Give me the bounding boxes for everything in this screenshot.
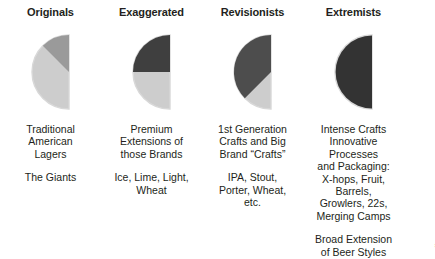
half-pie-chart-exaggerated (115, 33, 189, 111)
pie-geometry (335, 35, 372, 109)
segment-description: Premium Extensions of those Brands (120, 123, 183, 160)
half-pie-chart-extremists (317, 33, 391, 111)
pie-filled-slice (335, 36, 371, 109)
segment-column-extremists: Extremists Intense Crafts Innovative Pro… (303, 6, 404, 259)
half-pie-svg (115, 33, 189, 111)
pie-geometry (32, 35, 69, 109)
column-heading: Originals (27, 6, 74, 19)
segment-examples: IPA, Stout, Porter, Wheat, etc. (219, 171, 286, 208)
half-pie-svg (317, 33, 391, 111)
column-heading: Exaggerated (119, 6, 184, 19)
pie-geometry (133, 35, 170, 109)
segment-examples: The Giants (25, 171, 76, 183)
segment-examples: Ice, Lime, Light, Wheat (114, 171, 188, 196)
half-pie-chart-revisionists (216, 33, 290, 111)
half-pie-svg (216, 33, 290, 111)
column-heading: Revisionists (221, 6, 285, 19)
segment-columns: Originals Traditional American Lagers Th… (0, 6, 404, 256)
segment-column-revisionists: Revisionists 1st Generation Crafts and B… (202, 6, 303, 219)
column-heading: Extremists (326, 6, 381, 19)
segment-description: Intense Crafts Innovative Processes and … (305, 123, 402, 222)
craft-beer-segments-figure: Originals Traditional American Lagers Th… (0, 0, 435, 259)
half-pie-chart-originals (14, 33, 88, 111)
segment-column-exaggerated: Exaggerated Premium Extensions of those … (101, 6, 202, 207)
pie-geometry (233, 35, 270, 109)
segment-description: 1st Generation Crafts and Big Brand “Cra… (218, 123, 287, 160)
segment-description: Traditional American Lagers (26, 123, 75, 160)
pie-filled-slice (133, 35, 170, 72)
segment-examples: Broad Extension of Beer Styles (315, 233, 392, 258)
half-pie-svg (14, 33, 88, 111)
segment-column-originals: Originals Traditional American Lagers Th… (0, 6, 101, 195)
